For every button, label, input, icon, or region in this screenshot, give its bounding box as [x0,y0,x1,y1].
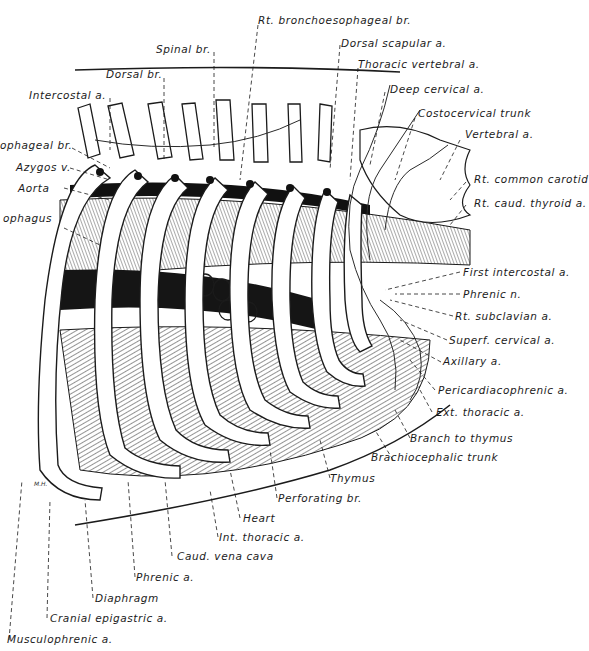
label-cranial-epigastric-a: Cranial epigastric a. [50,612,168,624]
anatomical-illustration: Rt. bronchoesophageal br. Spinal br. Dor… [0,0,589,651]
label-deep-cervical-a: Deep cervical a. [390,83,485,95]
label-vertebral-a: Vertebral a. [465,128,534,140]
neck-structures [360,127,470,223]
label-esophagus: ophagus [3,212,52,224]
label-branch-to-thymus: Branch to thymus [410,432,513,444]
label-perforating-br: Perforating br. [278,492,362,504]
label-intercostal-a: Intercostal a. [29,89,106,101]
label-musculophrenic-a: Musculophrenic a. [7,633,113,645]
label-ext-thoracic-a: Ext. thoracic a. [436,406,525,418]
label-dorsal-scapular-a: Dorsal scapular a. [341,37,447,49]
label-int-thoracic-a: Int. thoracic a. [219,531,305,543]
label-axillary-a: Axillary a. [443,355,502,367]
label-phrenic-n: Phrenic n. [463,288,521,300]
label-phrenic-a: Phrenic a. [136,571,194,583]
label-first-intercostal-a: First intercostal a. [463,266,570,278]
label-caud-vena-cava: Caud. vena cava [177,550,274,562]
label-superf-cervical-a: Superf. cervical a. [449,334,555,346]
label-rt-bronchoesophageal-br: Rt. bronchoesophageal br. [258,14,411,26]
vertebral-spines [78,100,332,162]
label-esophageal-br: ophageal br. [0,139,73,151]
label-pericardiacophrenic-a: Pericardiacophrenic a. [438,384,569,396]
label-thymus: Thymus [330,472,375,484]
label-rt-subclavian-a: Rt. subclavian a. [455,310,553,322]
label-thoracic-vertebral-a: Thoracic vertebral a. [358,58,480,70]
label-dorsal-br: Dorsal br. [106,68,162,80]
label-heart: Heart [243,512,275,524]
label-azygos-v: Azygos v. [16,161,71,173]
label-rt-caud-thyroid-a: Rt. caud. thyroid a. [474,197,587,209]
label-costocervical-trunk: Costocervical trunk [418,107,531,119]
artist-initials: M.H. [34,480,48,487]
label-rt-common-carotid: Rt. common carotid [474,173,589,185]
label-brachiocephalic-trunk: Brachiocephalic trunk [371,451,498,463]
label-diaphragm: Diaphragm [95,592,159,604]
label-aorta: Aorta [18,182,49,194]
label-spinal-br: Spinal br. [156,43,211,55]
